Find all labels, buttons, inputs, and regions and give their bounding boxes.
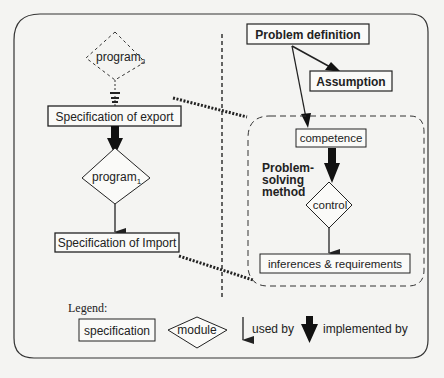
svg-text:implemented by: implemented by [323,322,408,336]
legend-specification: specification [79,319,155,341]
legend-module: module [168,317,227,348]
spec-import-box: Specification of Import [55,233,179,252]
svg-text:inferences & requirements: inferences & requirements [268,258,402,270]
svg-text:Specification of export: Specification of export [55,110,174,124]
svg-text:Assumption: Assumption [316,75,385,89]
arrow-to-competence-head [301,113,311,128]
svg-text:module: module [177,323,217,337]
competence-box: competence [296,129,366,147]
program2-module: program2 [86,32,146,80]
legend-title: Legend: [68,301,107,315]
arrow-to-competence [292,46,306,118]
assumption-box: Assumption [310,71,392,91]
program2-to-export-connector [110,80,120,106]
svg-text:specification: specification [84,324,150,338]
svg-text:used by: used by [252,322,294,336]
inferences-box: inferences & requirements [260,254,410,273]
svg-text:Specification of Import: Specification of Import [58,236,177,250]
svg-text:program2: program2 [96,50,146,66]
arrow-to-assumption [292,46,332,68]
spec-export-box: Specification of export [48,106,181,126]
svg-text:program1: program1 [92,170,142,186]
legend-implemented-by: implemented by [301,316,408,343]
psm-label-3: method [262,185,305,199]
implemented-by-arrow-right [324,148,340,183]
svg-text:competence: competence [300,132,363,144]
svg-text:Problem definition: Problem definition [255,28,360,42]
control-module: control [306,182,352,228]
svg-text:control: control [313,199,348,211]
mapping-line-top [173,98,247,117]
mapping-line-bottom [179,256,253,280]
program1-module: program1 [82,148,150,204]
problem-definition-box: Problem definition [247,24,369,44]
diagram-canvas: program2 Specification of export program… [0,0,444,378]
legend-used-by: used by [243,317,294,340]
